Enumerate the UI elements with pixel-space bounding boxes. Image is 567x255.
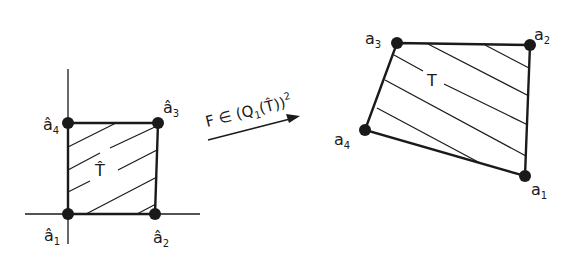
node-a3 <box>391 37 403 49</box>
arrowhead-icon <box>286 114 300 123</box>
diagram-canvas: â4 â3 â1 â2 T̂ F ∈ (Q1(T̂))2 a3 a2 a4 a1… <box>0 0 567 255</box>
label-T-hat: T̂ <box>94 161 105 180</box>
label-a2: a2 <box>534 25 550 46</box>
label-a1: a1 <box>531 180 547 201</box>
node-a1-hat <box>62 208 74 220</box>
node-a4-hat <box>62 117 74 129</box>
node-a4 <box>359 124 371 136</box>
node-a1 <box>519 170 531 182</box>
label-a2-hat: â2 <box>153 228 169 249</box>
target-quadrilateral <box>365 43 530 176</box>
target-hatching <box>377 44 529 163</box>
reference-nodes <box>62 117 164 220</box>
reference-element <box>25 69 200 244</box>
label-T: T <box>426 71 437 90</box>
node-a3-hat <box>152 117 164 129</box>
label-a4: a4 <box>334 130 350 151</box>
label-a3-hat: â3 <box>163 98 179 119</box>
target-element <box>359 37 536 182</box>
target-nodes <box>359 37 536 182</box>
mapping-label: F ∈ (Q1(T̂))2 <box>203 90 294 133</box>
label-a1-hat: â1 <box>44 226 60 247</box>
node-a2-hat <box>149 208 161 220</box>
hatching <box>68 123 157 214</box>
label-a3: a3 <box>365 29 381 50</box>
label-a4-hat: â4 <box>43 115 59 136</box>
